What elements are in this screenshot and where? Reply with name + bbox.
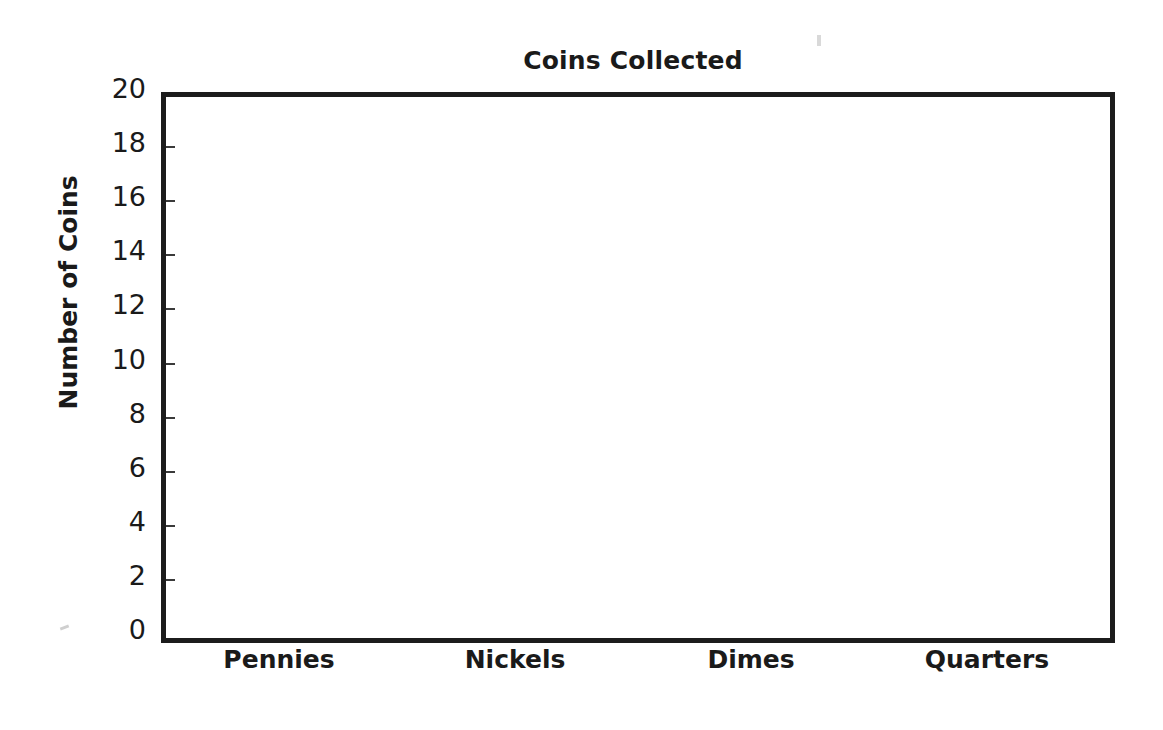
y-axis-tick-mark <box>166 363 175 365</box>
scan-speck-2 <box>817 35 821 46</box>
y-axis-tick-mark <box>166 254 175 256</box>
x-axis-tick-label: Dimes <box>633 645 869 674</box>
y-axis-tick-mark <box>166 471 175 473</box>
y-axis-tick-label: 16 <box>6 181 146 212</box>
x-axis-tick-label: Nickels <box>397 645 633 674</box>
plot-frame <box>161 92 1115 643</box>
y-axis-tick-label: 2 <box>6 560 146 591</box>
y-axis-tick-mark <box>166 417 175 419</box>
y-axis-tick-mark <box>166 308 175 310</box>
x-axis-tick-label: Quarters <box>869 645 1105 674</box>
y-axis-tick-label: 0 <box>6 614 146 645</box>
y-axis-tick-mark <box>166 200 175 202</box>
y-axis-tick-label: 10 <box>6 344 146 375</box>
y-axis-tick-label: 20 <box>6 73 146 104</box>
y-axis-tick-mark <box>166 579 175 581</box>
y-axis-tick-mark <box>166 146 175 148</box>
y-axis-tick-label: 14 <box>6 235 146 266</box>
y-axis-tick-label: 8 <box>6 398 146 429</box>
bar-chart: Coins Collected Number of Coins 02468101… <box>0 0 1163 730</box>
y-axis-tick-label: 4 <box>6 506 146 537</box>
x-axis-tick-label: Pennies <box>161 645 397 674</box>
y-axis-tick-label: 18 <box>6 127 146 158</box>
y-axis-tick-mark <box>166 525 175 527</box>
y-axis-tick-label: 12 <box>6 289 146 320</box>
chart-title: Coins Collected <box>161 46 1105 75</box>
y-axis-tick-label: 6 <box>6 452 146 483</box>
